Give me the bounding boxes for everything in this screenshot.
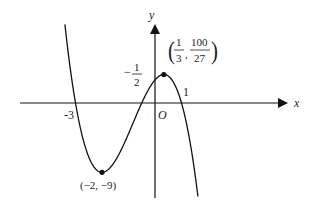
y-axis-label: y [148,8,155,22]
max-point [161,72,166,77]
svg-text:): ) [211,36,218,65]
cubic-function-graph: x y O -3 1 − 1 2 ( 1 3 , 100 27 ) (−2, −… [0,0,311,204]
svg-text:2: 2 [134,76,140,88]
min-point [99,170,104,175]
min-point-label: (−2, −9) [80,179,117,192]
origin-label: O [158,108,167,122]
svg-text:1: 1 [176,36,182,48]
svg-text:−: − [124,65,131,79]
x-axis-label: x [293,96,300,110]
svg-text:,: , [185,48,188,60]
svg-text:1: 1 [134,61,140,73]
intercept-label-neg3: -3 [64,108,74,122]
svg-text:27: 27 [194,52,206,64]
intercept-label-1: 1 [183,85,189,99]
max-point-label: ( 1 3 , 100 27 ) [168,36,218,65]
svg-text:3: 3 [176,52,182,64]
intercept-label-neg-half: − 1 2 [124,61,142,88]
svg-text:100: 100 [191,36,208,48]
